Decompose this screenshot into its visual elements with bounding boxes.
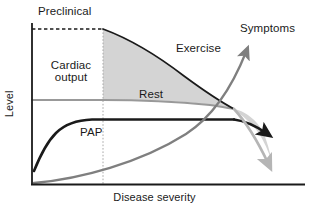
annotation-pap: PAP — [80, 126, 102, 138]
pap-curve — [34, 120, 234, 172]
annotation-cardiac-output: Cardiac output — [42, 59, 100, 83]
figure-container: Preclinical Exercise Symptoms Cardiac ou… — [0, 0, 309, 212]
annotation-rest: Rest — [139, 88, 163, 100]
annotation-exercise: Exercise — [176, 42, 221, 54]
y-axis-label: Level — [4, 79, 16, 129]
annotation-preclinical: Preclinical — [38, 5, 92, 17]
annotation-symptoms: Symptoms — [240, 22, 295, 34]
x-axis-label: Disease severity — [0, 192, 309, 204]
